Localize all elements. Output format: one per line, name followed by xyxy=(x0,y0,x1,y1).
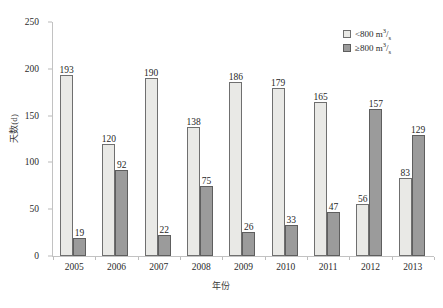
bar-group: 18626 xyxy=(222,22,264,256)
bar-value-label: 186 xyxy=(229,72,243,82)
bar-below-800[interactable]: 138 xyxy=(187,127,200,256)
bar-above-800[interactable]: 19 xyxy=(73,238,86,256)
x-axis-tick-mark xyxy=(138,257,139,260)
y-axis-tick-label: 0 xyxy=(0,251,39,261)
bar-value-label: 33 xyxy=(286,215,296,225)
bar-group: 19319 xyxy=(53,22,95,256)
y-axis-tick-label: 150 xyxy=(0,111,39,121)
bar-above-800[interactable]: 92 xyxy=(115,170,128,256)
bar-below-800[interactable]: 186 xyxy=(229,82,242,256)
legend: <800 m3/s ≥800 m3/s xyxy=(343,27,435,55)
bar-value-label: 138 xyxy=(186,117,200,127)
bar-value-label: 129 xyxy=(411,125,425,135)
x-axis-tick-mark xyxy=(349,257,350,260)
bar-value-label: 92 xyxy=(117,160,127,170)
x-axis-line xyxy=(52,256,434,257)
x-axis-tick-mark xyxy=(265,257,266,260)
bar-below-800[interactable]: 179 xyxy=(272,88,285,256)
bar-group: 17933 xyxy=(265,22,307,256)
x-axis-tick-mark xyxy=(222,257,223,260)
bar-value-label: 193 xyxy=(59,65,73,75)
x-axis-tick-mark xyxy=(53,257,54,260)
bar-group: 16547 xyxy=(307,22,349,256)
legend-label-above-800: ≥800 m3/s xyxy=(355,41,391,55)
bar-value-label: 47 xyxy=(329,202,339,212)
y-axis-tick-label: 100 xyxy=(0,157,39,167)
bar-value-label: 179 xyxy=(271,78,285,88)
bar-group: 13875 xyxy=(180,22,222,256)
x-axis-tick-mark xyxy=(434,257,435,260)
x-axis-tick-label: 2013 xyxy=(387,262,439,272)
bar-value-label: 22 xyxy=(159,225,169,235)
x-axis-title: 年份 xyxy=(0,279,443,292)
x-axis-tick-mark xyxy=(307,257,308,260)
bar-below-800[interactable]: 56 xyxy=(356,204,369,256)
legend-item-below-800[interactable]: <800 m3/s xyxy=(343,27,435,41)
bar-above-800[interactable]: 33 xyxy=(285,225,298,256)
bar-value-label: 120 xyxy=(102,134,116,144)
legend-item-above-800[interactable]: ≥800 m3/s xyxy=(343,41,435,55)
bar-value-label: 190 xyxy=(144,68,158,78)
bar-value-label: 75 xyxy=(202,176,212,186)
bar-above-800[interactable]: 75 xyxy=(200,186,213,256)
bar-value-label: 26 xyxy=(244,222,254,232)
bar-above-800[interactable]: 26 xyxy=(242,232,255,256)
bar-group: 83129 xyxy=(392,22,434,256)
bar-above-800[interactable]: 129 xyxy=(412,135,425,256)
bar-value-label: 56 xyxy=(358,194,368,204)
x-axis-tick-mark xyxy=(95,257,96,260)
y-axis-tick-labels: 050100150200250 xyxy=(0,0,48,308)
bar-below-800[interactable]: 193 xyxy=(60,75,73,256)
bar-value-label: 157 xyxy=(369,99,383,109)
legend-swatch-light xyxy=(343,30,351,38)
y-axis-tick-label: 200 xyxy=(0,64,39,74)
x-axis-tick-mark xyxy=(180,257,181,260)
bar-below-800[interactable]: 165 xyxy=(314,102,327,256)
bar-group: 19022 xyxy=(138,22,180,256)
bar-value-label: 19 xyxy=(75,228,85,238)
bar-value-label: 83 xyxy=(400,168,410,178)
bar-below-800[interactable]: 190 xyxy=(145,78,158,256)
bar-group: 56157 xyxy=(349,22,391,256)
bar-below-800[interactable]: 120 xyxy=(102,144,115,256)
bar-above-800[interactable]: 22 xyxy=(158,235,171,256)
legend-label-below-800: <800 m3/s xyxy=(355,27,391,41)
bar-value-label: 165 xyxy=(313,92,327,102)
y-axis-tick-label: 250 xyxy=(0,17,39,27)
bar-above-800[interactable]: 157 xyxy=(369,109,382,256)
bar-group: 12092 xyxy=(95,22,137,256)
bar-below-800[interactable]: 83 xyxy=(399,178,412,256)
bar-above-800[interactable]: 47 xyxy=(327,212,340,256)
x-axis-tick-mark xyxy=(392,257,393,260)
y-axis-tick-label: 50 xyxy=(0,204,39,214)
plot-area: 1931912092190221387518626179331654756157… xyxy=(53,22,434,256)
legend-swatch-dark xyxy=(343,44,351,52)
bar-chart: 天数(d) 050100150200250 193191209219022138… xyxy=(0,0,443,308)
